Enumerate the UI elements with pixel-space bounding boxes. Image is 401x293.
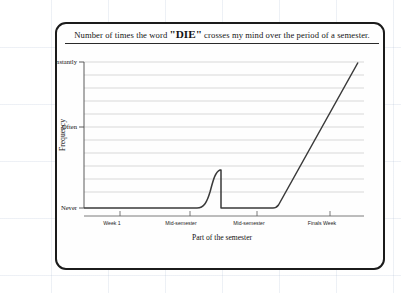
x-tick-label-week-1: Week 1 [103,220,121,226]
y-axis-title: Frequency [58,119,67,151]
page-background: Number of times the word "DIE" crosses m… [0,0,401,293]
x-axis-ticks [120,211,330,216]
x-tick-label-mid-semester-2: Mid-semester [233,220,265,226]
data-line-frequency [84,63,358,209]
x-axis-title: Part of the semester [192,233,253,242]
y-tick-label-never: Never [61,204,78,211]
x-tick-label-finals-week: Finals Week [308,220,337,226]
y-axis-ticks [79,62,84,208]
y-tick-label-constantly: Constantly [57,58,78,65]
x-tick-label-mid-semester-1: Mid-semester [165,220,197,226]
chart-card: Number of times the word "DIE" crosses m… [55,22,385,270]
plot-area: Constantly Often Never Frequency Week 1 … [57,24,387,272]
line-chart-svg: Constantly Often Never Frequency Week 1 … [57,24,387,272]
